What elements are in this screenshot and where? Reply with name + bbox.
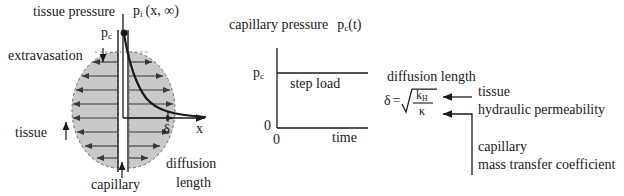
formula-numerator-sub: H (422, 94, 428, 103)
capillary-label: capillary (91, 178, 140, 192)
step-plot-x-zero-label: 0 (273, 133, 280, 147)
annotation-mass-transfer-line2: mass transfer coefficient (478, 158, 615, 172)
figure-root: tissue pressure pi(x, ∞) pc extravasatio… (0, 0, 624, 196)
annotation-arrow-mass-transfer (443, 114, 472, 175)
step-y-sub: c (260, 71, 264, 81)
step-plot-y-value-label: pc (253, 66, 264, 81)
tissue-profile-left (72, 52, 118, 168)
step-y-base: p (253, 65, 260, 80)
formula-equals: = (393, 93, 401, 108)
delta-label: δ (163, 122, 170, 137)
pi-base: p (133, 3, 140, 18)
pi-subscript: i (140, 9, 143, 19)
formula-numerator: kH (416, 89, 428, 103)
step-load-curve-label: step load (290, 77, 340, 91)
diffusion-length-label-line1: diffusion (166, 157, 216, 171)
step-plot-x-axis-label: time (332, 131, 357, 145)
formula-delta: δ (384, 93, 391, 108)
annotation-hydraulic-line1: tissue (478, 85, 510, 99)
x-axis-label: x (196, 122, 203, 136)
diffusion-length-label-line2: length (176, 176, 211, 190)
step-plot-title-text: capillary pressure (229, 17, 328, 32)
step-plot-title: capillary pressurepc(t) (229, 18, 361, 33)
diffusion-length-heading: diffusion length (387, 70, 476, 84)
delta-formula-symbol: δ= (384, 94, 401, 108)
pc-axis-label: pc (101, 26, 112, 41)
tissue-label: tissue (15, 126, 47, 140)
tissue-pressure-label: tissue pressure (33, 5, 115, 19)
pc-point-marker (121, 30, 128, 37)
pc-subscript: c (108, 31, 112, 41)
tissue-profile-right (129, 52, 175, 168)
annotation-mass-transfer-line1: capillary (478, 140, 527, 154)
pi-args: (x, ∞) (146, 3, 179, 18)
step-plot-title-sym-arg: (t) (348, 17, 361, 32)
annotation-hydraulic-line2: hydraulic permeability (478, 103, 605, 117)
formula-denominator: κ (419, 105, 425, 117)
pc-base: p (101, 25, 108, 40)
pi-function-label: pi(x, ∞) (133, 4, 179, 19)
step-plot-y-zero-label: 0 (264, 119, 271, 133)
extravasation-label: extravasation (8, 49, 83, 63)
